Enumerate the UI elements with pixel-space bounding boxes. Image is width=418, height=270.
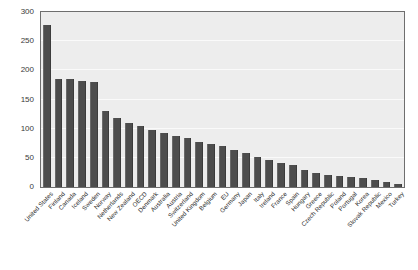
bars-layer xyxy=(41,12,404,187)
bar xyxy=(336,176,344,187)
bar xyxy=(102,111,110,187)
bar xyxy=(148,130,156,187)
bar xyxy=(195,142,203,188)
bar xyxy=(160,133,168,187)
y-axis-tick-label: 150 xyxy=(21,94,34,103)
bar xyxy=(242,153,250,187)
chart-title xyxy=(150,0,290,5)
bar xyxy=(289,165,297,187)
bar xyxy=(371,180,379,187)
bar xyxy=(265,160,273,187)
bar xyxy=(277,163,285,188)
y-axis-tick-label: 0 xyxy=(30,182,34,191)
bar xyxy=(312,173,320,187)
bar xyxy=(125,123,133,187)
y-axis-tick-label: 250 xyxy=(21,36,34,45)
bar xyxy=(55,79,63,188)
bar xyxy=(301,170,309,188)
bar xyxy=(347,177,355,188)
bar xyxy=(172,136,180,187)
bar xyxy=(90,82,98,187)
y-axis: 050100150200250300 xyxy=(0,11,37,188)
bar xyxy=(66,79,74,187)
bar xyxy=(383,182,391,187)
y-axis-tick-label: 200 xyxy=(21,65,34,74)
bar xyxy=(78,81,86,187)
y-axis-tick-label: 100 xyxy=(21,123,34,132)
y-axis-tick-label: 300 xyxy=(21,7,34,16)
bar xyxy=(254,157,262,187)
bar xyxy=(113,118,121,187)
bar xyxy=(207,144,215,187)
bar xyxy=(324,175,332,187)
y-axis-tick-label: 50 xyxy=(25,152,34,161)
bar xyxy=(219,146,227,187)
x-axis: United StatesFinlandCanadaIcelandSwedenN… xyxy=(40,188,405,270)
plot-area xyxy=(40,11,405,188)
bar xyxy=(230,150,238,187)
bar-chart-figure: 050100150200250300 United StatesFinlandC… xyxy=(0,0,418,270)
bar xyxy=(137,126,145,187)
bar xyxy=(43,25,51,187)
bar xyxy=(184,138,192,187)
bar xyxy=(359,178,367,187)
bar xyxy=(394,184,402,187)
